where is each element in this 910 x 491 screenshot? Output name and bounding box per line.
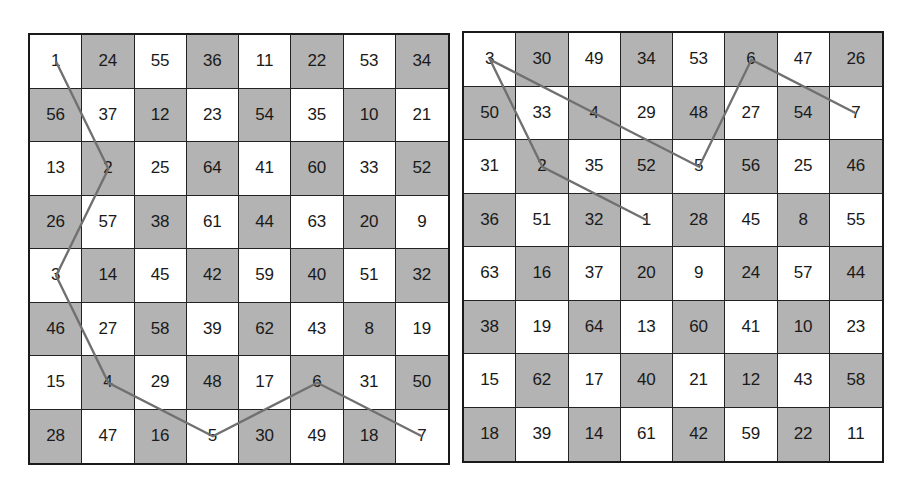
board-cell: 25 — [135, 142, 187, 196]
board-cell: 29 — [621, 87, 673, 141]
board-cell: 64 — [187, 142, 239, 196]
board-cell: 38 — [135, 196, 187, 250]
board-cell: 47 — [82, 410, 134, 464]
board-cell: 35 — [291, 89, 343, 143]
board-cell: 46 — [30, 303, 82, 357]
board-cell: 46 — [830, 140, 882, 194]
board-cell: 64 — [569, 301, 621, 355]
board-cell: 4 — [569, 87, 621, 141]
board-cell: 55 — [135, 35, 187, 89]
board-cell: 2 — [516, 140, 568, 194]
board-cell: 12 — [725, 354, 777, 408]
board-cell: 4 — [82, 356, 134, 410]
board-cell: 13 — [30, 142, 82, 196]
board-cell: 26 — [30, 196, 82, 250]
board-cell: 42 — [673, 408, 725, 462]
board-cell: 63 — [464, 247, 516, 301]
board-cell: 53 — [344, 35, 396, 89]
board-cell: 16 — [516, 247, 568, 301]
board-cell: 19 — [396, 303, 448, 357]
board-cell: 40 — [621, 354, 673, 408]
board-cell: 36 — [187, 35, 239, 89]
board-cell: 38 — [464, 301, 516, 355]
board-cell: 52 — [396, 142, 448, 196]
board-cell: 36 — [464, 194, 516, 248]
board-cell: 7 — [830, 87, 882, 141]
board-cell: 62 — [516, 354, 568, 408]
board-cell: 28 — [30, 410, 82, 464]
board-cell: 6 — [291, 356, 343, 410]
board-cell: 3 — [464, 33, 516, 87]
board-cell: 15 — [464, 354, 516, 408]
board-cell: 37 — [82, 89, 134, 143]
board-cell: 9 — [396, 196, 448, 250]
board-cell: 47 — [778, 33, 830, 87]
board-cell: 3 — [30, 249, 82, 303]
board-cell: 9 — [673, 247, 725, 301]
board-cell: 44 — [830, 247, 882, 301]
board-cell: 55 — [830, 194, 882, 248]
board-cell: 42 — [187, 249, 239, 303]
board-cell: 53 — [673, 33, 725, 87]
board-cell: 41 — [239, 142, 291, 196]
board-cell: 50 — [396, 356, 448, 410]
board-cell: 54 — [778, 87, 830, 141]
board-cell: 5 — [673, 140, 725, 194]
board-cell: 50 — [464, 87, 516, 141]
board-cell: 11 — [239, 35, 291, 89]
board-cell: 56 — [30, 89, 82, 143]
board-cell: 45 — [725, 194, 777, 248]
board-cell: 8 — [344, 303, 396, 357]
board-cell: 14 — [82, 249, 134, 303]
board-cell: 27 — [82, 303, 134, 357]
board-cell: 25 — [778, 140, 830, 194]
board-cell: 45 — [135, 249, 187, 303]
board-cell: 18 — [464, 408, 516, 462]
board-cell: 58 — [135, 303, 187, 357]
board-cell: 7 — [396, 410, 448, 464]
board-cell: 51 — [516, 194, 568, 248]
board-cell: 39 — [187, 303, 239, 357]
board-cell: 31 — [344, 356, 396, 410]
board-cell: 57 — [82, 196, 134, 250]
board-cell: 40 — [291, 249, 343, 303]
board-cell: 14 — [569, 408, 621, 462]
board-cell: 44 — [239, 196, 291, 250]
board-cell: 61 — [187, 196, 239, 250]
board-cell: 6 — [725, 33, 777, 87]
board-cell: 41 — [725, 301, 777, 355]
board-cell: 49 — [569, 33, 621, 87]
board-cell: 60 — [673, 301, 725, 355]
board-cell: 12 — [135, 89, 187, 143]
board-cell: 1 — [30, 35, 82, 89]
board-cell: 31 — [464, 140, 516, 194]
board-cell: 37 — [569, 247, 621, 301]
board-cell: 21 — [673, 354, 725, 408]
board-cell: 20 — [344, 196, 396, 250]
board-cell: 16 — [135, 410, 187, 464]
board-cell: 59 — [725, 408, 777, 462]
board-cell: 56 — [725, 140, 777, 194]
board-cell: 49 — [291, 410, 343, 464]
board-cell: 30 — [516, 33, 568, 87]
board-cell: 34 — [396, 35, 448, 89]
board-cell: 2 — [82, 142, 134, 196]
left-board-grid: 1245536112253345637122354351021132256441… — [30, 35, 448, 463]
board-cell: 17 — [569, 354, 621, 408]
board-cell: 48 — [673, 87, 725, 141]
board-cell: 43 — [291, 303, 343, 357]
board-cell: 34 — [621, 33, 673, 87]
left-board: 1245536112253345637122354351021132256441… — [28, 33, 450, 465]
board-cell: 58 — [830, 354, 882, 408]
board-cell: 13 — [621, 301, 673, 355]
board-cell: 11 — [830, 408, 882, 462]
board-cell: 27 — [725, 87, 777, 141]
right-board-grid: 3304934536472650334294827547312355255625… — [464, 33, 882, 461]
board-cell: 19 — [516, 301, 568, 355]
board-cell: 43 — [778, 354, 830, 408]
board-cell: 57 — [778, 247, 830, 301]
board-cell: 22 — [778, 408, 830, 462]
board-cell: 18 — [344, 410, 396, 464]
right-board: 3304934536472650334294827547312355255625… — [462, 31, 884, 463]
board-cell: 26 — [830, 33, 882, 87]
